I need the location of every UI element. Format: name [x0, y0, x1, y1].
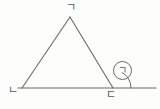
triangle-right-side [70, 17, 113, 88]
triangle-left-side [22, 17, 70, 88]
triangle-diagram-canvas [0, 0, 160, 109]
geometry-figure: ㄱ ㄴ ㄷ ㄱ [0, 0, 160, 109]
vertex-label-bottom-right: ㄷ [106, 89, 116, 100]
exterior-angle-circled-label: ㄱ [113, 61, 132, 80]
vertex-label-apex: ㄱ [66, 2, 76, 13]
vertex-label-bottom-left: ㄴ [8, 85, 18, 96]
